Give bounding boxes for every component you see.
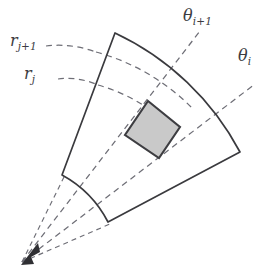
label-theta-ip1-sub: i+1 — [193, 15, 212, 27]
label-theta-i-sub: i — [248, 55, 252, 67]
label-r-jp1-base: r — [10, 31, 18, 50]
label-theta-i: θi — [238, 48, 251, 66]
guide-arc-r-jp1 — [96, 52, 194, 110]
label-r-j-base: r — [24, 64, 32, 83]
label-theta-i-plus-1: θi+1 — [183, 8, 212, 26]
label-theta-ip1-base: θ — [183, 6, 193, 25]
r-jp1-leader-arc — [46, 45, 96, 52]
origin-arrowhead — [21, 243, 40, 265]
label-theta-i-base: θ — [238, 46, 248, 65]
label-r-jp1-sub: j+1 — [18, 40, 37, 52]
label-r-j: rj — [24, 66, 35, 84]
polar-cell-diagram: rj+1 rj θi+1 θi — [0, 0, 274, 275]
figure-canvas — [0, 0, 274, 275]
highlighted-cell — [125, 101, 180, 158]
guide-ray-sector-upper-edge — [22, 177, 64, 262]
label-r-j-sub: j — [32, 73, 35, 85]
label-r-j-plus-1: rj+1 — [10, 33, 37, 51]
r-j-leader-arc — [58, 78, 98, 85]
guide-ray-sector-lower-edge — [22, 224, 110, 262]
